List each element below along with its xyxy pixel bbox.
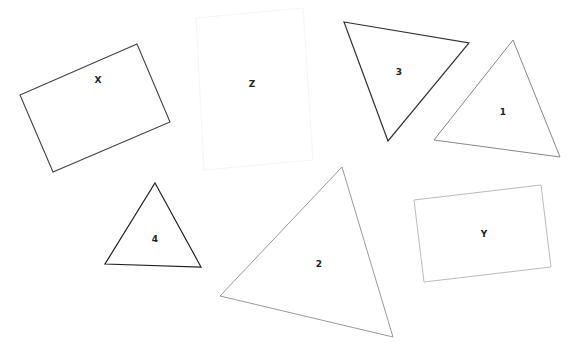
diagram-canvas: X Z 3 1 4 2 Y [0, 0, 578, 359]
label-4: 4 [152, 234, 158, 244]
shape-x: X [20, 44, 170, 172]
triangle-3 [344, 22, 469, 141]
label-x: X [95, 75, 102, 85]
label-y: Y [480, 229, 488, 239]
shape-2: 2 [220, 167, 393, 337]
shape-1: 1 [434, 40, 560, 157]
triangle-2 [220, 167, 393, 337]
label-1: 1 [500, 107, 506, 117]
label-3: 3 [396, 67, 402, 77]
shape-y: Y [414, 185, 551, 282]
triangle-1 [434, 40, 560, 157]
label-z: Z [249, 79, 256, 89]
shape-3: 3 [344, 22, 469, 141]
shape-4: 4 [105, 183, 201, 267]
shape-z: Z [196, 8, 313, 170]
label-2: 2 [316, 259, 322, 269]
rectangle-z [196, 8, 313, 170]
triangle-4 [105, 183, 201, 267]
rectangle-x [20, 44, 170, 172]
